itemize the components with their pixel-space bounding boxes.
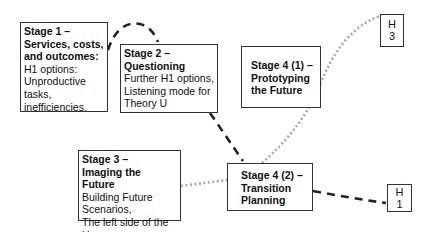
stage4-1-title-line: the Future bbox=[251, 84, 320, 97]
stage1-body-line: inefficiencies. bbox=[24, 101, 104, 114]
horizon-h1-letter: H bbox=[388, 186, 411, 198]
stage4-2-title-line: Stage 4 (2) – bbox=[241, 169, 312, 182]
stage2-box: Stage 2 – Questioning Further H1 options… bbox=[120, 44, 218, 113]
stage3-title-line: Imaging the bbox=[82, 166, 177, 179]
horizon-h3-letter: H bbox=[381, 18, 403, 30]
stage4-1-title-line: Prototyping bbox=[251, 72, 320, 85]
stage2-body-line: Listening mode for bbox=[124, 85, 214, 98]
stage1-body-line: tasks, bbox=[24, 88, 104, 101]
stage3-title-line: Future bbox=[82, 178, 177, 191]
stage4-2-box: Stage 4 (2) – Transition Planning bbox=[227, 163, 313, 211]
horizon-h3-box: H 3 bbox=[380, 14, 404, 47]
stage1-title-line: and outcomes: bbox=[24, 50, 104, 63]
dashed-connector-stage4-2-to-h1 bbox=[313, 191, 386, 203]
stage1-title-line: Services, costs, bbox=[24, 38, 104, 51]
stage3-body-line: Scenarios, bbox=[82, 203, 177, 216]
stage2-body-line: Theory U bbox=[124, 97, 214, 110]
stage3-title-line: Stage 3 – bbox=[82, 153, 177, 166]
horizon-h1-number: 1 bbox=[388, 198, 411, 210]
stage2-title-line: Questioning bbox=[124, 60, 214, 73]
stage1-title-line: Stage 1 – bbox=[24, 25, 104, 38]
stage3-box: Stage 3 – Imaging the Future Building Fu… bbox=[78, 150, 181, 221]
stage1-body-line: Unproductive bbox=[24, 75, 104, 88]
stage1-body-line: H1 options: bbox=[24, 63, 104, 76]
stage4-2-title-line: Planning bbox=[241, 194, 312, 207]
stage3-body-line: Building Future bbox=[82, 191, 177, 204]
horizon-h1-box: H 1 bbox=[387, 184, 412, 212]
stage2-title-line: Stage 2 – bbox=[124, 47, 214, 60]
horizon-h3-number: 3 bbox=[381, 30, 403, 42]
stage4-1-box: Stage 4 (1) – Prototyping the Future bbox=[241, 46, 321, 108]
stage2-body-line: Further H1 options, bbox=[124, 72, 214, 85]
stage4-1-title-line: Stage 4 (1) – bbox=[251, 59, 320, 72]
stage1-box: Stage 1 – Services, costs, and outcomes:… bbox=[20, 22, 108, 112]
stage4-2-title-line: Transition bbox=[241, 182, 312, 195]
dashed-connector-stage2-to-stage4-2 bbox=[210, 113, 243, 161]
dotted-connector-stage3-to-stage4-2 bbox=[181, 180, 227, 186]
stage3-body-line: The left side of the U bbox=[82, 216, 177, 232]
